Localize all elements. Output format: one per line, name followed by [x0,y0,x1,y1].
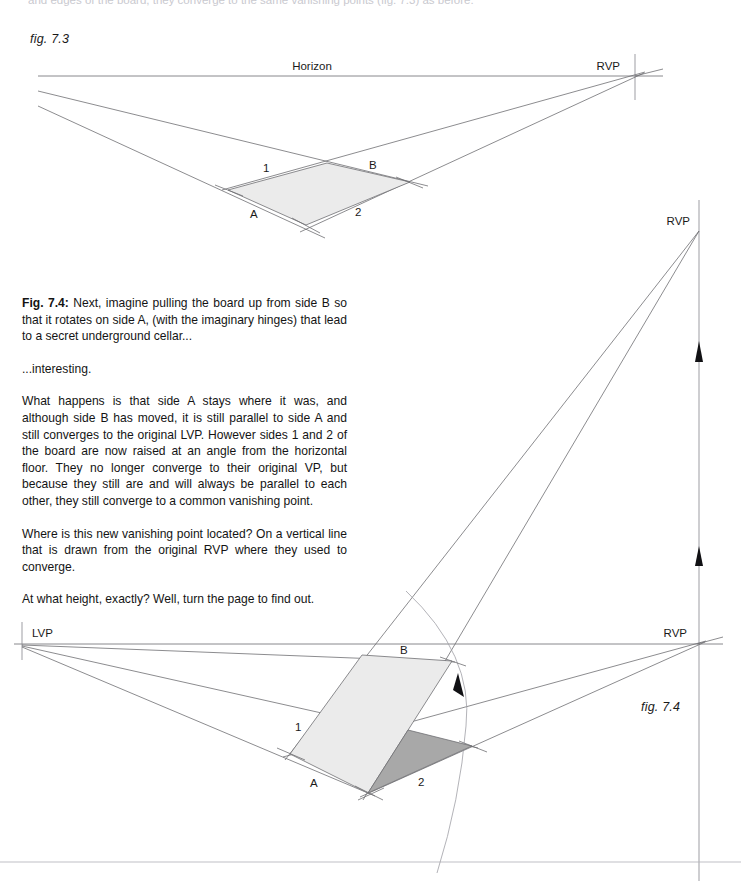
label-74-side-2: 2 [418,776,424,788]
label-74-side-1: 1 [295,721,301,733]
measure-arrow-upper-74 [695,341,703,362]
page-canvas: and edges of the board, they converge to… [0,0,741,881]
rvp-lower-overshoot-74 [697,637,723,644]
figure-74-drawing: LVP RVP RVP B 1 A 2 [0,0,741,881]
label-74-side-a: A [310,777,318,789]
lvp-label-74: LVP [32,627,53,639]
measure-arrow-lower-74 [695,546,703,566]
rvp-upper-label-74: RVP [667,215,691,227]
raised-board-quad-74 [290,655,452,793]
label-74-side-b: B [400,644,408,656]
rvp-lower-label-74: RVP [664,627,688,639]
